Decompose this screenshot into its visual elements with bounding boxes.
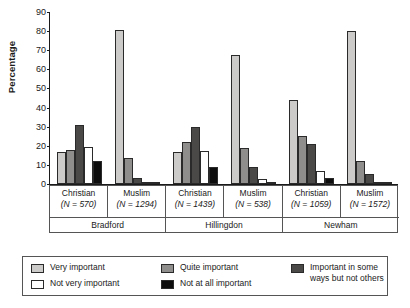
legend-item: Very important bbox=[31, 262, 151, 273]
bar-group bbox=[108, 12, 166, 184]
legend-swatch bbox=[161, 264, 174, 273]
x-axis-sample-size-label: (N = 1294) bbox=[108, 199, 165, 210]
bar bbox=[240, 148, 249, 184]
bar bbox=[356, 161, 365, 184]
x-axis-religion-label: Christian bbox=[166, 188, 223, 199]
legend-swatch bbox=[31, 264, 44, 273]
bar bbox=[57, 152, 66, 184]
y-axis-tick-label: 60 bbox=[28, 65, 46, 74]
y-axis-tick-label: 80 bbox=[28, 27, 46, 36]
x-axis-sample-size-label: (N = 1572) bbox=[341, 199, 399, 210]
bar-chart-figure: Percentage 0102030405060708090 Christian… bbox=[0, 0, 410, 308]
legend-swatch bbox=[31, 280, 44, 289]
bar-group bbox=[282, 12, 340, 184]
bar bbox=[298, 136, 307, 184]
x-axis-city-label: Hillingdon bbox=[166, 217, 282, 233]
x-axis-label-table: Christian(N = 570)Muslim(N = 1294)Christ… bbox=[49, 185, 398, 233]
x-axis-religion-label: Christian bbox=[283, 188, 340, 199]
bar bbox=[383, 182, 392, 184]
bar bbox=[231, 55, 240, 184]
y-axis-ticks: 0102030405060708090 bbox=[28, 8, 50, 188]
x-axis-sample-size-label: (N = 1439) bbox=[166, 199, 223, 210]
bar bbox=[93, 161, 102, 184]
bar bbox=[209, 167, 218, 184]
bar bbox=[200, 151, 209, 184]
bar bbox=[347, 31, 356, 184]
x-axis-religion-label: Muslim bbox=[341, 188, 399, 199]
y-axis-tick-label: 50 bbox=[28, 84, 46, 93]
x-axis-sample-size-label: (N = 1059) bbox=[283, 199, 340, 210]
bar bbox=[289, 100, 298, 184]
bar bbox=[191, 127, 200, 184]
y-axis-tick-label: 10 bbox=[28, 161, 46, 170]
y-axis-tick-label: 20 bbox=[28, 142, 46, 151]
bar bbox=[267, 182, 276, 184]
y-axis-tick-label: 70 bbox=[28, 46, 46, 55]
x-axis-group-cell: Christian(N = 1059) bbox=[283, 186, 341, 217]
legend-label: Important in some ways but not others bbox=[310, 262, 387, 283]
bar bbox=[182, 142, 191, 184]
plot-area bbox=[50, 12, 398, 184]
x-axis-religion-label: Muslim bbox=[225, 188, 282, 199]
y-axis-tick-label: 90 bbox=[28, 8, 46, 17]
bar-group bbox=[340, 12, 398, 184]
x-axis-religion-label: Muslim bbox=[108, 188, 165, 199]
legend-item: Not very important bbox=[31, 278, 151, 289]
legend-label: Quite important bbox=[180, 262, 238, 273]
x-axis-group-cell: Muslim(N = 538) bbox=[225, 186, 283, 217]
bar bbox=[84, 147, 93, 184]
x-axis-city-label: Bradford bbox=[50, 217, 166, 233]
bar bbox=[249, 167, 258, 184]
bar-group bbox=[50, 12, 108, 184]
bar bbox=[316, 171, 325, 184]
x-axis-city-label: Newham bbox=[283, 217, 399, 233]
bar bbox=[115, 30, 124, 184]
bar bbox=[133, 178, 142, 184]
chart-legend: Very importantQuite importantImportant i… bbox=[22, 256, 388, 296]
y-axis-tick-label: 40 bbox=[28, 104, 46, 113]
legend-item: Not at all important bbox=[161, 278, 281, 289]
bar bbox=[374, 182, 383, 184]
legend-swatch bbox=[161, 280, 174, 289]
bar-group bbox=[166, 12, 224, 184]
bar bbox=[258, 179, 267, 184]
y-axis-title: Percentage bbox=[5, 24, 19, 110]
x-axis-group-cell: Muslim(N = 1294) bbox=[108, 186, 166, 217]
x-axis-group-cell: Christian(N = 1439) bbox=[166, 186, 224, 217]
bar-group bbox=[224, 12, 282, 184]
bar bbox=[151, 182, 160, 184]
x-axis-sample-size-label: (N = 538) bbox=[225, 199, 282, 210]
legend-label: Not very important bbox=[50, 278, 119, 289]
legend-item: Quite important bbox=[161, 262, 281, 273]
y-axis-tick-label: 0 bbox=[28, 180, 46, 189]
bar bbox=[307, 144, 316, 184]
bar bbox=[325, 178, 334, 184]
x-axis-sample-size-label: (N = 570) bbox=[50, 199, 107, 210]
bar bbox=[124, 158, 133, 184]
x-axis-group-cell: Muslim(N = 1572) bbox=[341, 186, 399, 217]
bar bbox=[75, 125, 84, 184]
bar bbox=[142, 182, 151, 184]
bar bbox=[365, 174, 374, 185]
legend-label: Not at all important bbox=[180, 278, 251, 289]
bar bbox=[66, 150, 75, 184]
bar bbox=[173, 152, 182, 184]
y-axis-tick-label: 30 bbox=[28, 123, 46, 132]
x-axis-religion-label: Christian bbox=[50, 188, 107, 199]
legend-swatch bbox=[291, 264, 304, 273]
legend-label: Very important bbox=[50, 262, 105, 273]
x-axis-group-cell: Christian(N = 570) bbox=[50, 186, 108, 217]
legend-item: Important in some ways but not others bbox=[291, 262, 387, 283]
